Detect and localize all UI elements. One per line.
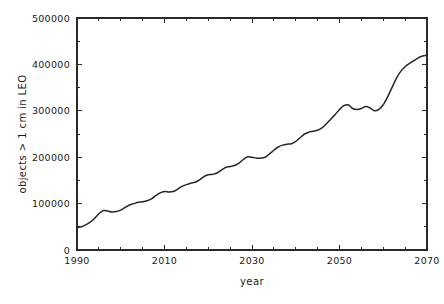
x-tick-label: 2070 bbox=[414, 255, 439, 266]
x-tick-label: 2050 bbox=[327, 255, 352, 266]
y-tick-label: 400000 bbox=[32, 59, 70, 70]
x-axis-title: year bbox=[240, 276, 264, 287]
y-tick-label: 200000 bbox=[32, 152, 70, 163]
chart-axes bbox=[77, 18, 427, 250]
y-tick-label: 100000 bbox=[32, 198, 70, 209]
y-axis-tick-labels: 0100000200000300000400000500000 bbox=[32, 13, 70, 256]
y-tick-label: 300000 bbox=[32, 105, 70, 116]
data-series-line bbox=[77, 55, 427, 228]
line-chart: 0100000200000300000400000500000 19902010… bbox=[0, 0, 444, 304]
y-tick-label: 500000 bbox=[32, 13, 70, 24]
x-tick-label: 2010 bbox=[152, 255, 177, 266]
x-tick-label: 1990 bbox=[64, 255, 89, 266]
x-tick-label: 2030 bbox=[239, 255, 264, 266]
x-axis-tick-labels: 19902010203020502070 bbox=[64, 255, 439, 266]
y-axis-title: objects > 1 cm in LEO bbox=[17, 74, 28, 193]
chart-container: 0100000200000300000400000500000 19902010… bbox=[0, 0, 444, 304]
chart-tick-marks bbox=[77, 18, 427, 250]
y-tick-label: 0 bbox=[64, 245, 70, 256]
